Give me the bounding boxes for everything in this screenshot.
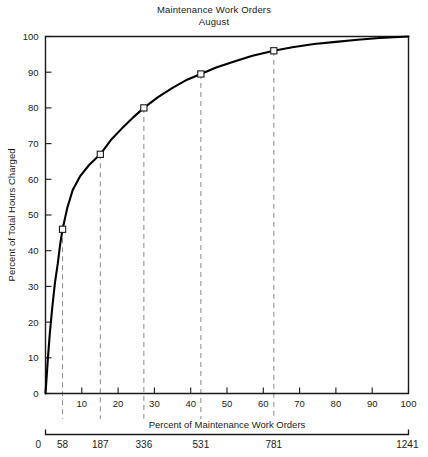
svg-text:100: 100 [23, 31, 39, 42]
svg-text:531: 531 [193, 439, 210, 450]
svg-text:10: 10 [77, 398, 88, 409]
chart-page: Maintenance Work Orders August 010203040… [0, 0, 428, 457]
svg-text:10: 10 [28, 352, 39, 363]
svg-text:80: 80 [331, 398, 342, 409]
svg-text:58: 58 [57, 439, 69, 450]
svg-text:90: 90 [367, 398, 378, 409]
axis-title-group: Percent of Maintenance Work OrdersPercen… [6, 149, 306, 430]
tick-group [46, 37, 409, 394]
svg-text:50: 50 [222, 398, 233, 409]
marker-group [59, 48, 276, 233]
svg-text:60: 60 [258, 398, 269, 409]
axis-group [46, 37, 409, 394]
svg-text:781: 781 [265, 439, 282, 450]
tick-label-group: 0102030405060708090100102030405060708090… [23, 31, 417, 409]
svg-text:80: 80 [28, 102, 39, 113]
svg-text:1241: 1241 [396, 439, 419, 450]
svg-text:30: 30 [149, 398, 160, 409]
dropline-group [63, 51, 274, 419]
svg-text:Percent of Total Hours Charged: Percent of Total Hours Charged [6, 149, 17, 282]
curve-group [46, 37, 409, 394]
svg-text:100: 100 [401, 398, 417, 409]
svg-text:20: 20 [28, 317, 39, 328]
secondary-axis-group: 0581873365317811241 [36, 430, 419, 450]
svg-text:40: 40 [28, 245, 39, 256]
svg-text:90: 90 [28, 67, 39, 78]
svg-text:20: 20 [113, 398, 124, 409]
svg-text:336: 336 [136, 439, 153, 450]
svg-text:60: 60 [28, 174, 39, 185]
svg-text:0: 0 [33, 388, 38, 399]
svg-text:70: 70 [28, 138, 39, 149]
svg-text:187: 187 [92, 439, 109, 450]
svg-text:50: 50 [28, 209, 39, 220]
svg-text:40: 40 [185, 398, 196, 409]
svg-text:0: 0 [36, 439, 42, 450]
svg-text:30: 30 [28, 281, 39, 292]
svg-text:Percent of Maintenance Work Or: Percent of Maintenance Work Orders [149, 419, 306, 430]
pareto-chart: 0102030405060708090100102030405060708090… [0, 0, 428, 457]
svg-text:70: 70 [294, 398, 305, 409]
